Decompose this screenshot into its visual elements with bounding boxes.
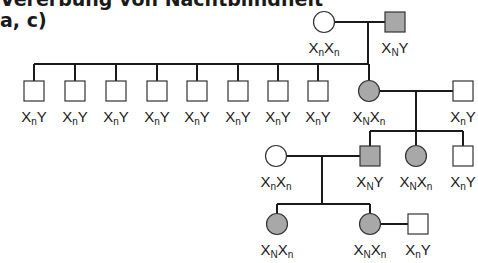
- unaffected-male-symbol: [408, 214, 428, 234]
- genotype-label: XNXn: [354, 242, 387, 258]
- unaffected-male-symbol: [228, 81, 248, 101]
- genotype-label: XnY: [144, 109, 170, 125]
- unaffected-female-symbol: [314, 12, 335, 33]
- genotype-label: XNY: [356, 174, 383, 190]
- unaffected-male-symbol: [147, 81, 167, 101]
- unaffected-male-symbol: [65, 81, 85, 101]
- genotype-label: XnY: [450, 109, 476, 125]
- genotype-label: XnY: [265, 109, 291, 125]
- genotype-label: XNY: [381, 40, 408, 56]
- unaffected-male-symbol: [187, 81, 207, 101]
- genotype-label: XnY: [225, 109, 251, 125]
- genotype-label: XNXn: [353, 109, 386, 125]
- genotype-label: XnXn: [260, 174, 291, 190]
- genotype-label: XnY: [450, 174, 476, 190]
- genotype-label: XnY: [184, 109, 210, 125]
- unaffected-male-symbol: [268, 81, 288, 101]
- genotype-label: XnY: [405, 242, 431, 258]
- unaffected-male-symbol: [453, 146, 473, 166]
- affected-female-symbol: [267, 214, 288, 235]
- unaffected-male-symbol: [453, 81, 473, 101]
- genotype-label: XnY: [103, 109, 129, 125]
- genotype-label: XnXn: [308, 40, 339, 56]
- unaffected-female-symbol: [266, 146, 287, 167]
- unaffected-male-symbol: [106, 81, 126, 101]
- affected-female-symbol: [360, 214, 381, 235]
- genotype-label: XnY: [305, 109, 331, 125]
- affected-male-symbol: [385, 12, 405, 32]
- genotype-label: XNXn: [400, 174, 433, 190]
- affected-female-symbol: [359, 81, 380, 102]
- unaffected-male-symbol: [24, 81, 44, 101]
- affected-female-symbol: [406, 146, 427, 167]
- unaffected-male-symbol: [308, 81, 328, 101]
- affected-male-symbol: [360, 146, 380, 166]
- genotype-label: XnY: [21, 109, 47, 125]
- genotype-label: XnY: [62, 109, 88, 125]
- genotype-label: XNXn: [261, 242, 294, 258]
